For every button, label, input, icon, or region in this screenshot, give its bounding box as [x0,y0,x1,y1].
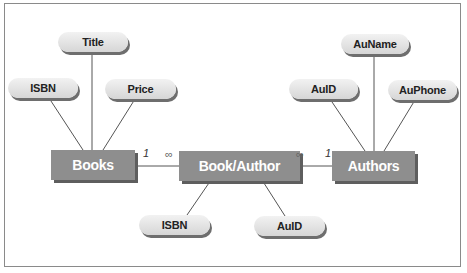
entity-book-author: Book/Author [179,151,300,181]
attribute-label: ISBN [162,219,187,231]
attribute-label: AuID [311,83,336,95]
entity-label: Book/Author [199,158,280,174]
attribute-label: Title [82,36,103,48]
entity-authors: Authors [332,151,415,181]
attribute-auid-authors: AuID [289,79,358,99]
cardinality-authors-one: 1 [325,147,331,159]
attribute-auname: AuName [341,34,409,54]
cardinality-books-one: 1 [143,147,149,159]
attribute-label: Price [128,83,154,95]
cardinality-bookauthor-many-left: ∞ [165,148,173,160]
attribute-isbn-bookauthor: ISBN [139,215,210,235]
attribute-label: AuID [277,220,302,232]
attribute-label: ISBN [30,82,55,94]
entity-books: Books [51,150,135,180]
attribute-auid-bookauthor: AuID [254,216,325,236]
attribute-price: Price [105,79,176,99]
cardinality-bookauthor-many-right: ∞ [296,148,304,160]
attribute-auphone: AuPhone [388,80,457,100]
attribute-label: AuName [353,38,396,50]
entity-label: Authors [348,158,400,174]
attribute-label: AuPhone [399,84,446,96]
attribute-isbn-books: ISBN [8,78,78,98]
entity-label: Books [72,157,113,173]
attribute-title: Title [58,32,128,52]
